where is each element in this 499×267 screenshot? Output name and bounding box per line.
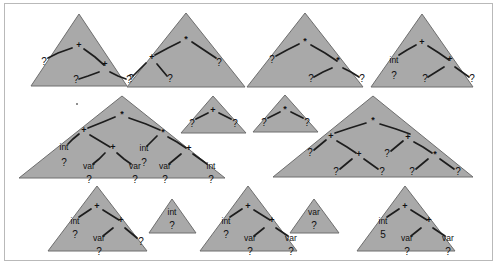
tree-r2-t4: var ? (290, 199, 339, 233)
node-right: + (405, 132, 410, 142)
node-left: ? (269, 54, 275, 65)
node-left-left: ? (307, 147, 313, 158)
node-root: + (94, 201, 99, 211)
triangle-outline (19, 96, 225, 178)
node-root: + (245, 201, 250, 211)
triangle-outline (247, 13, 363, 87)
node-left-right: + (356, 149, 361, 159)
node-root: * (120, 109, 124, 119)
node-left: ? (391, 70, 397, 81)
node-left-type: int (71, 216, 81, 226)
tree-r0-t1: + ? + ? ? (31, 14, 132, 86)
tree-r0-t4: + int ? + ? ? (371, 14, 475, 87)
node-lrl: ? (86, 174, 92, 185)
node-right: + (426, 215, 431, 225)
node-left-left-type: int (60, 142, 70, 152)
node-left-type: int (379, 216, 389, 226)
node-rl-type: var (401, 233, 413, 243)
node-left: 5 (380, 229, 386, 240)
node-right: ? (216, 57, 222, 68)
node-left: ? (72, 229, 78, 240)
node-left-right: ? (167, 73, 173, 84)
tree-r1-t4: * + ? + ? ? + ? * ? ? (273, 96, 473, 177)
node-rrl-type: var (159, 161, 171, 171)
node-right-right: * (433, 149, 437, 159)
node-lrl-type: var (83, 161, 95, 171)
node-type: var (308, 207, 320, 217)
node-right: + (118, 215, 123, 225)
node-right-left: ? (384, 148, 390, 159)
node-right-right: ? (359, 73, 365, 84)
node-right-left: ? (308, 73, 314, 84)
node-rrl: ? (162, 174, 168, 185)
node-right-left: ? (73, 74, 79, 85)
node-right-right: + (186, 143, 191, 153)
node-right: + (102, 59, 107, 69)
node-right-left: ? (96, 246, 102, 257)
node-left-left: ? (61, 157, 67, 168)
node-rr-type: var (285, 233, 297, 243)
node-root: + (76, 40, 81, 50)
node-rrl: ? (409, 166, 415, 177)
expression-tree-figure: + ? + ? ? * + ? ? ? * ? * (0, 0, 499, 267)
node-right-left-type: var (93, 233, 105, 243)
node-lrl: ? (333, 166, 339, 177)
node-root: * (184, 34, 188, 44)
node-rl: ? (404, 246, 410, 257)
node-right-left: ? (141, 157, 147, 168)
node-root: + (210, 105, 215, 115)
node-rr-type: var (442, 233, 454, 243)
tree-r0-t3: * ? * ? ? (247, 13, 365, 87)
node-value: ? (169, 220, 175, 231)
node-right-right: ? (138, 236, 144, 247)
node-root: * (283, 104, 287, 114)
node-rrr-type: int (207, 161, 217, 171)
node-rr: ? (445, 246, 451, 257)
node-right: ? (304, 117, 310, 128)
node-root: + (402, 201, 407, 211)
tree-diagram-canvas: + ? + ? ? * + ? ? ? * ? * (0, 0, 499, 267)
node-lrr: ? (132, 174, 138, 185)
tree-r1-t1: * + int ? + var ? var ? * int ? + var ? … (19, 96, 225, 185)
node-left: + (149, 52, 154, 62)
node-left-right: + (110, 142, 115, 152)
stray-speck (76, 103, 78, 105)
tree-r2-t3: + int ? + var ? var ? (200, 186, 297, 257)
tree-r2-t2: int ? (149, 199, 196, 233)
node-type: int (168, 207, 178, 217)
tree-r2-t5: + int 5 + var ? var ? (357, 186, 455, 257)
node-value: ? (311, 220, 317, 231)
tree-r1-t3: * ? ? (253, 95, 318, 132)
node-left: ? (261, 117, 267, 128)
triangle-outline (127, 13, 245, 87)
node-right: + (447, 54, 452, 64)
node-left: ? (189, 118, 195, 129)
node-right-right: ? (469, 73, 475, 84)
node-left: + (81, 125, 86, 135)
node-left: ? (41, 56, 47, 67)
node-left: + (328, 131, 333, 141)
node-root: + (419, 37, 424, 47)
tree-r0-t2: * + ? ? ? (127, 13, 245, 87)
node-root: * (371, 115, 375, 125)
node-left-left: ? (128, 73, 134, 84)
node-right: * (336, 55, 340, 65)
node-lrr-type: var (129, 161, 141, 171)
node-right-left: ? (422, 73, 428, 84)
node-right: ? (232, 118, 238, 129)
node-lrr: ? (379, 166, 385, 177)
tree-r2-t1: + int ? + var ? ? (48, 186, 147, 257)
node-left-type: int (390, 55, 400, 65)
node-left: ? (223, 229, 229, 240)
node-rl-type: var (244, 233, 256, 243)
node-rr: ? (288, 246, 294, 257)
node-right-left-type: int (140, 143, 150, 153)
node-right: * (161, 127, 165, 137)
node-rrr: ? (208, 174, 214, 185)
node-rl: ? (247, 246, 253, 257)
tree-r1-t2: + ? ? (181, 96, 246, 133)
node-right: + (269, 215, 274, 225)
node-root: * (303, 36, 307, 46)
node-left-type: int (222, 216, 232, 226)
node-rrr: ? (455, 166, 461, 177)
